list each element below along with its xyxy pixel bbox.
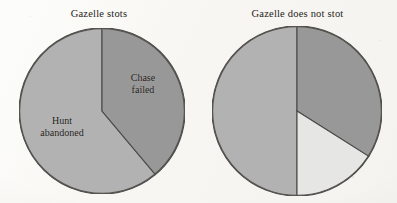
scan-speck	[380, 40, 381, 41]
scan-speck	[352, 176, 354, 178]
scan-speck	[30, 16, 31, 17]
pie-chart-left	[19, 28, 185, 194]
pie-chart-right	[212, 26, 382, 196]
chart-panel-gazelle-does-not-stot: Gazelle does not stot Chase failed Hunt …	[198, 0, 397, 203]
chart-title-right: Gazelle does not stot	[198, 8, 397, 19]
pie-right-svg	[212, 26, 382, 196]
pie-left-svg	[19, 28, 185, 194]
pie-chart-figure: Gazelle stots Chase failed Hunt abandone…	[0, 0, 397, 203]
chart-panel-gazelle-stots: Gazelle stots Chase failed Hunt abandone…	[0, 0, 198, 203]
chart-title-left: Gazelle stots	[0, 8, 198, 19]
pie-right-slice-hunt-abandoned	[212, 26, 297, 196]
